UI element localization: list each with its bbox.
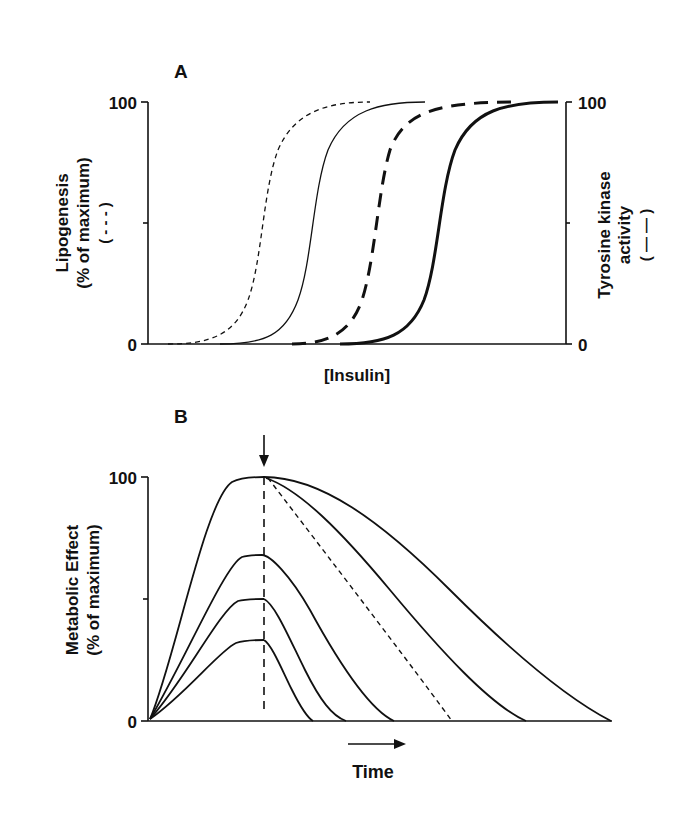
curve-50-decay [264, 599, 346, 721]
curve-100-rise [150, 477, 264, 719]
arrow-down-icon [259, 455, 269, 467]
b-y-tick-100: 100 [109, 469, 137, 488]
curve-50-rise [150, 599, 264, 719]
curve-100-medium-decay [266, 478, 526, 721]
left-y-tick-100: 100 [109, 94, 137, 113]
b-y-label-line2: (% of maximum) [84, 524, 103, 655]
right-y-tick-0: 0 [578, 336, 587, 355]
tyrosine-kinase-shifted-curve [340, 102, 558, 344]
lipogenesis-control-curve [168, 102, 370, 344]
arrow-right-icon [394, 739, 406, 749]
left-y-label-line1: Lipogenesis [53, 173, 72, 272]
tyrosine-kinase-control-curve [292, 102, 520, 344]
curve-33-decay [264, 640, 313, 721]
curve-100-dashed-decay [268, 478, 452, 721]
b-y-tick-0: 0 [128, 713, 137, 732]
right-y-label-line2: activity [615, 205, 634, 264]
curve-33-rise [150, 640, 264, 719]
left-y-legend: ( - - - ) [96, 202, 113, 244]
left-y-label-line2: (% of maximum) [74, 157, 93, 288]
right-y-legend: ( — — ) [637, 209, 654, 262]
panel-b-x-label: Time [352, 762, 394, 782]
panel-b: B 100 0 Metabolic Effect (% of maximum) [63, 406, 612, 782]
right-y-tick-100: 100 [578, 94, 606, 113]
figure: A 100 0 100 0 Lipogenesis (% of maximum)… [0, 0, 693, 821]
curve-100-slow-decay [264, 477, 611, 721]
curve-68-decay [262, 555, 394, 721]
panel-a-x-label: [Insulin] [324, 366, 390, 385]
left-y-tick-0: 0 [128, 336, 137, 355]
right-y-label-line1: Tyrosine kinase [595, 171, 614, 298]
panel-a: A 100 0 100 0 Lipogenesis (% of maximum)… [53, 61, 654, 385]
curve-68-rise [150, 555, 262, 719]
panel-b-letter: B [174, 406, 188, 427]
panel-a-letter: A [174, 61, 188, 82]
b-y-label-line1: Metabolic Effect [63, 524, 82, 655]
